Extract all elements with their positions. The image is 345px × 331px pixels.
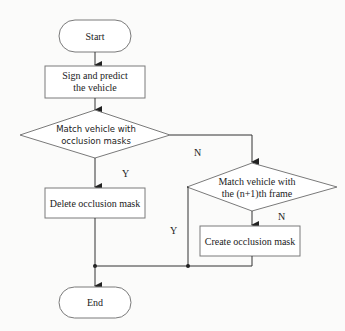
junction-dot-right [186, 264, 190, 268]
start-terminator: Start [59, 20, 131, 52]
decision-masks-line2: occlusion masks [61, 136, 131, 146]
masks-no-label: N [194, 147, 201, 158]
sign-predict-line1: Sign and predict [62, 70, 128, 81]
decision-frame-line2: the (n+1)th frame [222, 188, 293, 200]
sign-predict-line2: the vehicle [73, 82, 117, 93]
line-frame-yes [187, 187, 188, 266]
end-label: End [87, 297, 103, 308]
delete-mask-label: Delete occlusion mask [50, 198, 141, 209]
create-mask-process: Create occlusion mask [200, 226, 300, 256]
arrow-masks-no [170, 135, 252, 162]
decision-frame-line1: Match vehicle with [218, 176, 295, 187]
create-mask-label: Create occlusion mask [205, 236, 296, 247]
frame-no-label: N [278, 211, 285, 222]
sign-predict-process: Sign and predict the vehicle [45, 66, 145, 98]
decision-occlusion-masks: Match vehicle with occlusion masks [20, 110, 170, 158]
decision-next-frame: Match vehicle with the (n+1)th frame [187, 163, 337, 211]
masks-yes-label: Y [122, 168, 129, 179]
decision-masks-line1: Match vehicle with [56, 124, 136, 134]
line-merge [95, 256, 252, 266]
end-terminator: End [59, 287, 131, 318]
frame-yes-label: Y [170, 225, 177, 236]
flowchart-canvas: Start Sign and predict the vehicle Match… [0, 0, 345, 331]
start-label: Start [86, 31, 105, 42]
delete-mask-process: Delete occlusion mask [45, 188, 145, 218]
